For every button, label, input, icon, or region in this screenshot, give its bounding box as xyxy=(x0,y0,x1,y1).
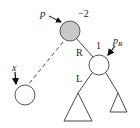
pR-pointer-arrow-icon xyxy=(108,46,115,55)
node-p xyxy=(60,21,80,41)
right-subtree-triangle xyxy=(110,93,127,112)
label-pR: pR xyxy=(112,35,123,48)
p-pointer-arrow-icon xyxy=(49,16,61,22)
x-pointer-arrow-icon xyxy=(15,72,16,84)
label-p: p xyxy=(39,7,46,19)
edge-p-to-x-dashed xyxy=(28,42,63,85)
edge-label-L: L xyxy=(76,73,82,84)
balance-p: −2 xyxy=(78,8,89,19)
left-subtree-triangle xyxy=(64,93,92,121)
balance-pR: 1 xyxy=(96,40,101,51)
edge-pR-to-right-subtree xyxy=(106,73,118,93)
node-x xyxy=(15,85,35,105)
avl-tree-diagram: p −2 1 pR x R L xyxy=(0,0,140,128)
edge-label-R: R xyxy=(76,47,83,58)
node-pR xyxy=(89,55,109,75)
label-x: x xyxy=(11,62,17,73)
